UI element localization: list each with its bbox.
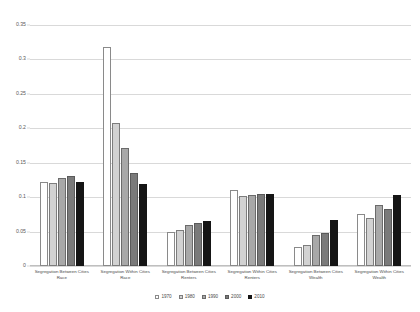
x-axis-label-line2: Wealth xyxy=(285,275,347,281)
y-axis-tick-label: 0.2 xyxy=(0,126,26,131)
bar[interactable] xyxy=(384,209,392,266)
legend-item[interactable]: 1990 xyxy=(202,295,218,300)
x-axis-label-line2: Renters xyxy=(158,275,220,281)
bar[interactable] xyxy=(130,173,138,266)
bar[interactable] xyxy=(67,176,75,266)
bar[interactable] xyxy=(176,230,184,266)
bar[interactable] xyxy=(121,148,129,266)
bar[interactable] xyxy=(76,182,84,266)
legend-swatch-icon xyxy=(248,295,252,299)
x-axis-label-line2: Race xyxy=(95,275,157,281)
bar-group xyxy=(157,25,221,266)
legend-label: 2010 xyxy=(254,295,264,300)
legend-item[interactable]: 1980 xyxy=(179,295,195,300)
x-axis-label: Segregation Between CitiesRace xyxy=(30,269,94,282)
bar[interactable] xyxy=(303,245,311,266)
y-axis-tick-label: 0.05 xyxy=(0,229,26,234)
legend-item[interactable]: 1970 xyxy=(155,295,171,300)
x-axis-label: Segregation Within CitiesRace xyxy=(94,269,158,282)
y-axis-tick-label: 0.3 xyxy=(0,57,26,62)
x-axis-label-line2: Renters xyxy=(222,275,284,281)
bar[interactable] xyxy=(266,194,274,266)
y-axis-tick-label: 0.1 xyxy=(0,195,26,200)
bar[interactable] xyxy=(185,225,193,266)
x-axis-label: Segregation Within CitiesWealth xyxy=(348,269,412,282)
bar[interactable] xyxy=(366,218,374,266)
bar[interactable] xyxy=(330,220,338,266)
bar[interactable] xyxy=(357,214,365,266)
bar[interactable] xyxy=(375,205,383,266)
legend-swatch-icon xyxy=(179,295,183,299)
legend-label: 1970 xyxy=(161,295,171,300)
x-axis-label: Segregation Between CitiesWealth xyxy=(284,269,348,282)
legend-item[interactable]: 2010 xyxy=(248,295,264,300)
bar-group xyxy=(30,25,94,266)
bar[interactable] xyxy=(312,235,320,266)
legend-label: 1980 xyxy=(185,295,195,300)
bar[interactable] xyxy=(294,247,302,266)
y-axis-tick-label: 0 xyxy=(0,263,26,268)
y-axis-tick-label: 0.25 xyxy=(0,91,26,96)
bar[interactable] xyxy=(257,194,265,266)
gridline xyxy=(30,266,411,267)
bar-group xyxy=(284,25,348,266)
bar[interactable] xyxy=(49,183,57,266)
bar[interactable] xyxy=(40,182,48,266)
y-axis-tick-label: 0.15 xyxy=(0,160,26,165)
bar[interactable] xyxy=(230,190,238,266)
legend-label: 1990 xyxy=(208,295,218,300)
bar[interactable] xyxy=(103,47,111,266)
legend-label: 2000 xyxy=(231,295,241,300)
bar[interactable] xyxy=(194,223,202,266)
legend-swatch-icon xyxy=(225,295,229,299)
bar[interactable] xyxy=(393,195,401,266)
bar[interactable] xyxy=(139,184,147,266)
chart-legend: 19701980199020002010 xyxy=(0,295,420,300)
x-axis-label: Segregation Within CitiesRenters xyxy=(221,269,285,282)
bar[interactable] xyxy=(248,195,256,266)
bar-chart: 00.050.10.150.20.250.30.35 Segregation B… xyxy=(0,0,420,312)
plot-area: 00.050.10.150.20.250.30.35 xyxy=(30,25,411,266)
legend-swatch-icon xyxy=(155,295,159,299)
legend-item[interactable]: 2000 xyxy=(225,295,241,300)
bar[interactable] xyxy=(58,178,66,266)
legend-swatch-icon xyxy=(202,295,206,299)
x-axis-label: Segregation Between CitiesRenters xyxy=(157,269,221,282)
y-axis-tick-label: 0.35 xyxy=(0,22,26,27)
x-axis-label-line2: Race xyxy=(31,275,93,281)
bar-group xyxy=(348,25,412,266)
bar-group xyxy=(221,25,285,266)
x-axis-labels: Segregation Between CitiesRaceSegregatio… xyxy=(30,269,411,282)
bar-group xyxy=(94,25,158,266)
bar[interactable] xyxy=(239,196,247,266)
x-axis-label-line2: Wealth xyxy=(349,275,411,281)
bar[interactable] xyxy=(203,221,211,266)
bar[interactable] xyxy=(167,232,175,266)
bar-groups xyxy=(30,25,411,266)
bar[interactable] xyxy=(321,233,329,266)
bar[interactable] xyxy=(112,123,120,266)
